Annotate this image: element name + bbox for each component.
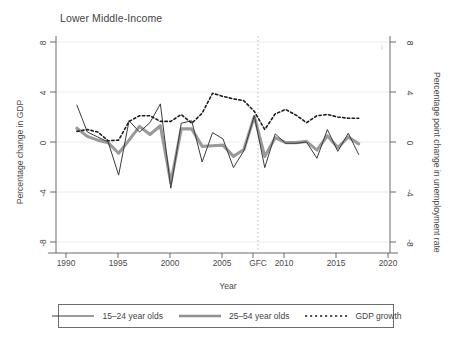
solid-thick-line-icon: [177, 311, 223, 321]
legend-entry-gdp-growth[interactable]: GDP growth: [296, 311, 408, 321]
solid-thin-line-icon: [50, 311, 96, 321]
legend-label-25-54: 25–54 year olds: [229, 311, 290, 321]
series-line-3: [77, 93, 359, 141]
legend-entry-15-24[interactable]: 15–24 year olds: [43, 311, 170, 321]
x-axis-ticks: [66, 253, 388, 258]
right-axis-ticks: [390, 42, 396, 242]
legend-label-gdp-growth: GDP growth: [355, 311, 401, 321]
legend-entry-25-54[interactable]: 25–54 year olds: [170, 311, 297, 321]
data-series-layer: [77, 93, 359, 188]
left-axis-ticks: [50, 42, 56, 242]
plot-canvas: [0, 0, 456, 349]
chart-figure: Lower Middle-Income Percentage change in…: [0, 0, 456, 349]
legend-label-15-24: 15–24 year olds: [102, 311, 163, 321]
dotted-line-icon: [303, 311, 349, 321]
chart-legend: 15–24 year olds 25–54 year olds GDP grow…: [58, 304, 394, 328]
